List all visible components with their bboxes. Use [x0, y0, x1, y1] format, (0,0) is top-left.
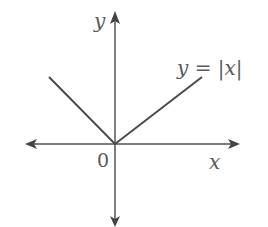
x-axis — [25, 139, 240, 149]
y-axis-label: y — [93, 9, 106, 33]
function-label: y = |x| — [176, 56, 243, 81]
x-axis-label: x — [209, 150, 220, 174]
graph-line — [49, 77, 202, 144]
origin-label: 0 — [97, 149, 109, 171]
y-axis — [110, 11, 120, 227]
absolute-value-graph: y x 0 y = |x| — [0, 0, 268, 227]
